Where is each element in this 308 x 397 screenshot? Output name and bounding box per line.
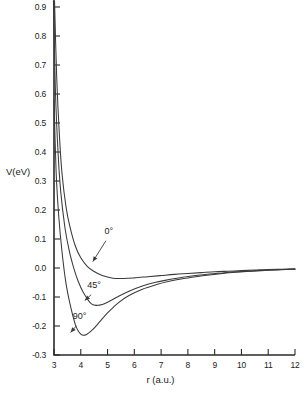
y-axis-tick-label: 0.6 [35,89,47,99]
annotation-label-0deg: 0° [105,226,114,236]
curve-90deg [54,100,295,336]
y-axis-tick-label: -0.3 [32,350,46,360]
chart-axes [54,0,295,355]
x-axis-tick-label: 6 [132,360,137,370]
chart-canvas: -0.3-0.2-0.10.00.10.20.30.40.50.60.70.80… [0,0,308,397]
x-axis-tick-label: 8 [186,360,191,370]
x-axis-tick-label: 5 [105,360,110,370]
curve-45deg [53,1,295,305]
x-axis-tick-label: 3 [52,360,57,370]
y-axis-tick-label: 0.5 [35,118,47,128]
x-axis-tick-label: 7 [159,360,164,370]
annotation-arrowhead-0deg [93,256,98,261]
curve-0deg [55,1,295,278]
x-axis-tick-label: 4 [79,360,84,370]
x-axis-tick-label: 9 [212,360,217,370]
x-axis-tick-label: 11 [264,360,273,370]
x-axis-title: r (a.u.) [147,374,175,385]
y-axis-tick-label: 0.1 [35,234,47,244]
x-axis-tick-label: 12 [290,360,300,370]
x-axis-tick-label: 10 [237,360,247,370]
y-axis-tick-label: 0.3 [35,176,47,186]
y-axis-tick-label: 0.9 [35,2,47,12]
y-axis-tick-label: 0.7 [35,60,47,70]
annotation-label-45deg: 45° [87,280,101,290]
y-axis-tick-label: 0.8 [35,31,47,41]
y-axis-tick-label: 0.0 [35,263,47,273]
annotation-label-90deg: 90° [73,311,87,321]
y-axis-tick-label: 0.4 [35,147,47,157]
y-axis-tick-label: 0.2 [35,205,47,215]
potential-energy-curve-figure: -0.3-0.2-0.10.00.10.20.30.40.50.60.70.80… [0,0,308,397]
y-axis-tick-label: -0.2 [32,321,46,331]
y-axis-tick-label: -0.1 [32,292,46,302]
y-axis-title: V(eV) [6,166,30,177]
